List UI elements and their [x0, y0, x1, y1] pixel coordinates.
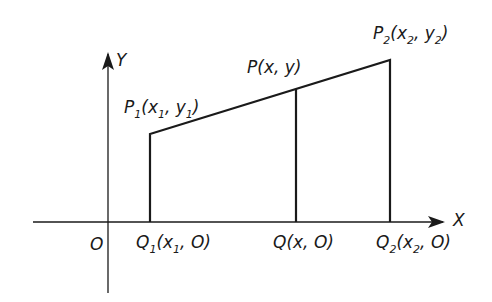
interpolation-segment	[150, 60, 390, 222]
p2-label: P2(x2, y2)	[373, 23, 448, 47]
x-axis-label: X	[452, 210, 465, 230]
origin-label: O	[90, 234, 103, 254]
y-axis-label: Y	[116, 50, 128, 70]
q-label: Q(x, O)	[273, 232, 334, 252]
q1-label: Q1(x1, O)	[136, 232, 211, 256]
interpolation-diagram: Y X O P1(x1, y1) P(x, y) P2(x2, y2) Q1(x…	[0, 0, 492, 302]
p-label: P(x, y)	[247, 57, 301, 77]
p1-label: P1(x1, y1)	[124, 97, 199, 121]
q2-label: Q2(x2, O)	[376, 232, 451, 256]
